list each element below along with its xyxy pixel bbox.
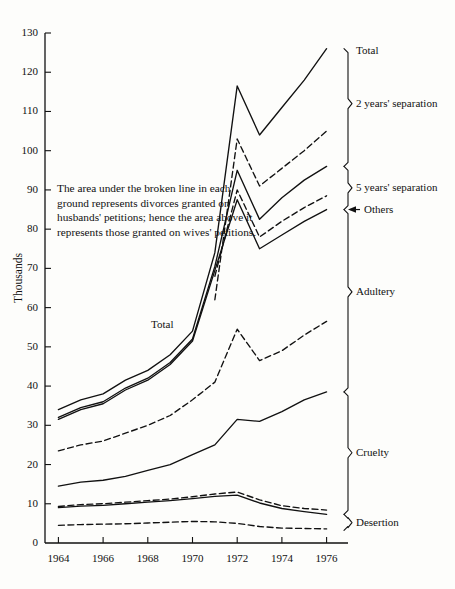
- y-tick-70: 70: [8, 261, 38, 273]
- y-tick-110: 110: [8, 104, 38, 116]
- bracket-path: [344, 49, 352, 167]
- y-tick-60: 60: [8, 301, 38, 313]
- y-tick-80: 80: [8, 222, 38, 234]
- y-tick-40: 40: [8, 379, 38, 391]
- x-tick-1972: 1972: [217, 552, 257, 564]
- y-tick-120: 120: [8, 65, 38, 77]
- y-tick-20: 20: [8, 458, 38, 470]
- x-tick-1964: 1964: [38, 552, 78, 564]
- others-arrow-head-icon: [348, 206, 356, 212]
- x-tick-1976: 1976: [307, 552, 347, 564]
- chart-plot-lines: [58, 49, 326, 529]
- y-tick-30: 30: [8, 418, 38, 430]
- series-line-7: [58, 492, 326, 510]
- chart-axes: [45, 33, 348, 543]
- y-tick-90: 90: [8, 183, 38, 195]
- series-label-2-years-separation: 2 years' separation: [356, 97, 437, 109]
- chart-annotation-note: The area under the broken line in each g…: [57, 181, 257, 240]
- x-tick-1974: 1974: [262, 552, 302, 564]
- series-label-desertion: Desertion: [356, 516, 399, 528]
- y-tick-130: 130: [8, 26, 38, 38]
- series-line-6: [58, 392, 326, 486]
- bracket-path: [344, 166, 352, 209]
- x-tick-1966: 1966: [83, 552, 123, 564]
- series-label-5-years-separation: 5 years' separation: [356, 181, 437, 193]
- series-label-cruelty: Cruelty: [356, 446, 389, 458]
- series-label-total: Total: [356, 44, 378, 56]
- bracket-path: [344, 392, 352, 514]
- y-tick-10: 10: [8, 497, 38, 509]
- x-tick-1968: 1968: [128, 552, 168, 564]
- y-tick-50: 50: [8, 340, 38, 352]
- inner-total-label: Total: [151, 318, 173, 330]
- bracket-path: [344, 210, 352, 392]
- x-tick-1970: 1970: [173, 552, 213, 564]
- y-tick-0: 0: [8, 536, 38, 548]
- series-line-8: [58, 495, 326, 514]
- series-label-others: Others: [364, 203, 393, 215]
- series-line-9: [58, 521, 326, 528]
- series-label-adultery: Adultery: [356, 285, 395, 297]
- y-tick-100: 100: [8, 144, 38, 156]
- bracket-path: [344, 514, 352, 530]
